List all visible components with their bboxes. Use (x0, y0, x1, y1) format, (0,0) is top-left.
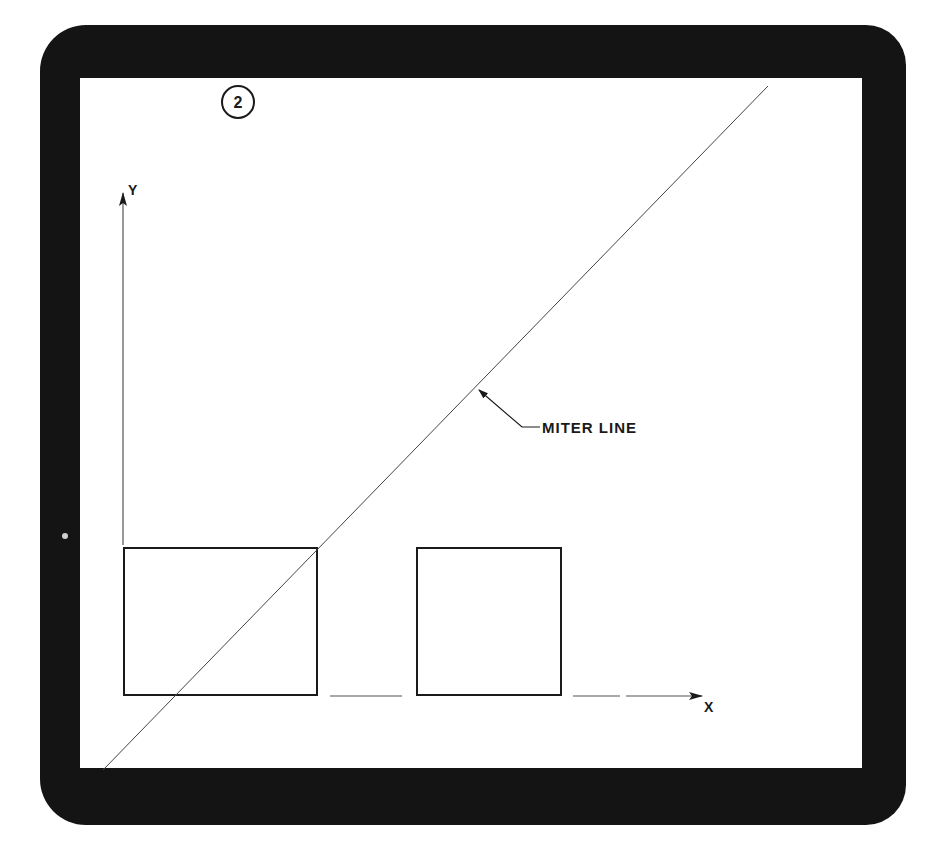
step-number-badge: 2 (222, 86, 254, 118)
miter-line (103, 86, 768, 770)
x-axis-label: X (704, 699, 714, 715)
front-view-rectangle (124, 548, 317, 695)
side-view-square (417, 548, 561, 695)
drawing-canvas: 2 Y X MITER LINE (0, 0, 936, 847)
step-number: 2 (234, 94, 243, 111)
y-axis: Y (123, 182, 138, 545)
miter-line-callout: MITER LINE (479, 390, 637, 436)
x-axis: X (330, 696, 714, 715)
miter-line-label: MITER LINE (542, 419, 637, 436)
y-axis-label: Y (128, 182, 138, 198)
